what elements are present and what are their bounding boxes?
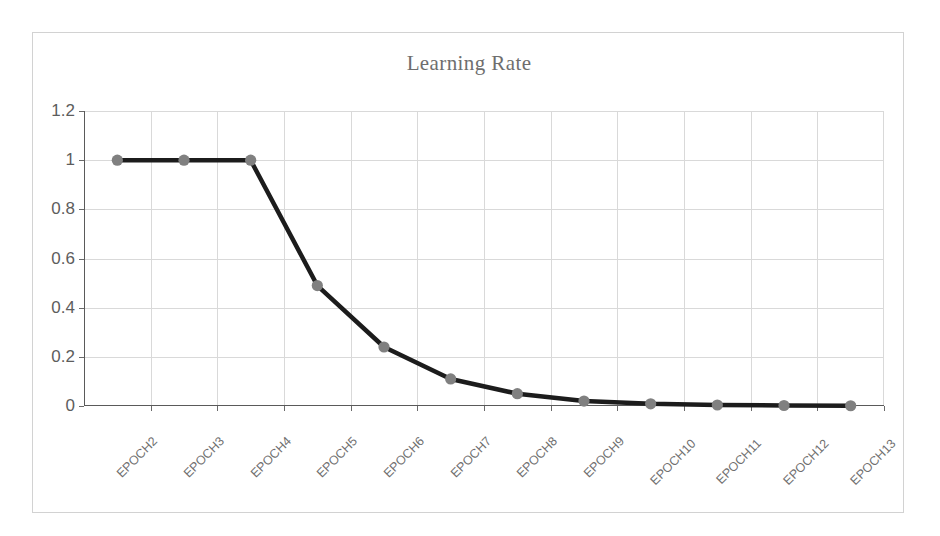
data-point-marker — [712, 399, 723, 410]
x-axis-tick-label-text: EPOCH7 — [448, 434, 494, 480]
x-axis-tick-label: EPOCH4 — [266, 416, 312, 462]
x-axis-tick-label-text: EPOCH8 — [514, 434, 560, 480]
chart-frame: Learning Rate 00.20.40.60.811.2 EPOCH2EP… — [32, 32, 904, 513]
y-axis-tick-mark — [79, 406, 84, 407]
x-axis-tick-label-text: EPOCH13 — [847, 437, 898, 488]
data-point-marker — [378, 341, 389, 352]
y-axis-tick-label: 0.4 — [51, 298, 75, 318]
plot-area: 00.20.40.60.811.2 EPOCH2EPOCH3EPOCH4EPOC… — [84, 111, 884, 406]
x-axis-tick-label-text: EPOCH9 — [581, 434, 627, 480]
x-axis-tick-label-text: EPOCH6 — [381, 434, 427, 480]
data-point-marker — [178, 155, 189, 166]
y-axis-tick-label: 1 — [66, 150, 75, 170]
y-axis-tick-label: 0.2 — [51, 347, 75, 367]
x-axis-tick-label: EPOCH5 — [332, 416, 378, 462]
x-axis-tick-label: EPOCH10 — [668, 416, 719, 467]
data-point-marker — [445, 373, 456, 384]
x-axis-tick-label-text: EPOCH4 — [248, 434, 294, 480]
y-axis-tick-label: 1.2 — [51, 101, 75, 121]
x-axis-tick-mark — [551, 406, 552, 411]
x-axis-tick-mark — [684, 406, 685, 411]
x-axis-tick-mark — [417, 406, 418, 411]
x-axis-tick-label-text: EPOCH5 — [314, 434, 360, 480]
y-axis-tick-label: 0.8 — [51, 199, 75, 219]
x-axis-tick-mark — [617, 406, 618, 411]
series-line-learning-rate — [84, 111, 884, 406]
x-axis-tick-mark — [217, 406, 218, 411]
x-axis-tick-mark — [484, 406, 485, 411]
chart-title: Learning Rate — [33, 51, 905, 76]
x-axis-tick-label: EPOCH9 — [599, 416, 645, 462]
x-axis-tick-label: EPOCH13 — [868, 416, 919, 467]
x-axis-tick-mark — [151, 406, 152, 411]
x-axis-tick-label: EPOCH7 — [466, 416, 512, 462]
x-axis-tick-label-text: EPOCH12 — [780, 437, 831, 488]
x-axis-tick-label: EPOCH2 — [132, 416, 178, 462]
chart-figure: Learning Rate 00.20.40.60.811.2 EPOCH2EP… — [0, 0, 940, 536]
x-axis-tick-label: EPOCH3 — [199, 416, 245, 462]
data-point-marker — [845, 400, 856, 411]
x-axis-tick-mark — [884, 406, 885, 411]
y-axis-tick-label: 0.6 — [51, 249, 75, 269]
data-point-marker — [645, 398, 656, 409]
y-axis-tick-label: 0 — [66, 396, 75, 416]
data-point-marker — [245, 155, 256, 166]
data-point-marker — [312, 280, 323, 291]
x-axis-tick-label-text: EPOCH10 — [647, 437, 698, 488]
x-axis-tick-label-text: EPOCH3 — [181, 434, 227, 480]
x-axis-tick-label-text: EPOCH2 — [114, 434, 160, 480]
series-markers — [112, 155, 857, 412]
x-axis-tick-label: EPOCH12 — [801, 416, 852, 467]
data-point-marker — [578, 395, 589, 406]
x-axis-tick-label: EPOCH6 — [399, 416, 445, 462]
series-polyline — [117, 160, 850, 406]
x-axis-tick-mark — [284, 406, 285, 411]
x-axis-tick-label: EPOCH8 — [532, 416, 578, 462]
data-point-marker — [512, 388, 523, 399]
x-axis-tick-mark — [351, 406, 352, 411]
x-axis-tick-label-text: EPOCH11 — [714, 436, 765, 487]
data-point-marker — [778, 400, 789, 411]
x-axis-tick-label: EPOCH11 — [734, 416, 785, 467]
data-point-marker — [112, 155, 123, 166]
